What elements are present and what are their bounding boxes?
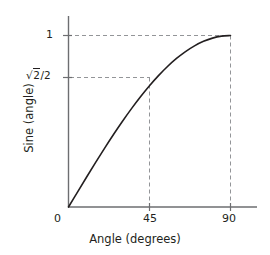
x-tick-label-45: 45 [143,213,157,224]
sine-curve-figure: 1 √2/2 0 45 90 Angle (degrees) Sine (ang… [0,0,270,255]
radical-denominator: /2 [40,69,50,81]
x-tick-label-90: 90 [222,213,236,224]
x-tick-label-zero: 0 [54,213,61,224]
y-tick-label-one: 1 [46,29,53,40]
x-axis-title: Angle (degrees) [0,232,270,246]
y-axis-title: Sine (angle) [22,48,36,188]
